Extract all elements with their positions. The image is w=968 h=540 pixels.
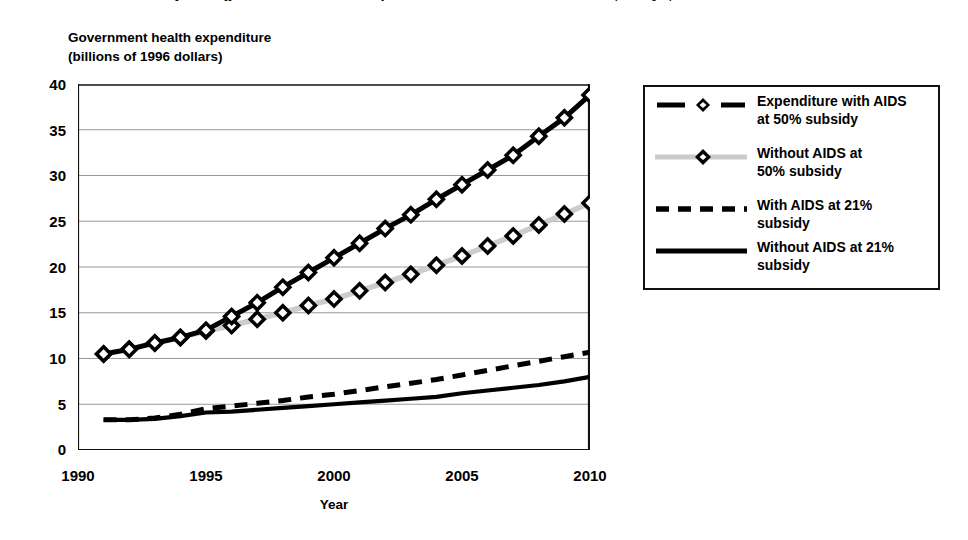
legend-label-line2: 50% subsidy: [757, 163, 842, 179]
legend-label-line1: Expenditure with AIDS: [757, 93, 907, 109]
data-point-marker: [145, 333, 164, 352]
data-point-marker: [273, 303, 292, 322]
series-layer: [94, 85, 590, 419]
y-tick-label-35: 35: [26, 123, 66, 138]
data-point-marker: [504, 226, 523, 245]
x-tick-label-1990: 1990: [43, 468, 113, 483]
data-point-marker: [197, 321, 216, 340]
y-tick-label-40: 40: [26, 77, 66, 92]
y-tick-label-20: 20: [26, 260, 66, 275]
x-tick-label-1995: 1995: [171, 468, 241, 483]
legend-label-with-aids-50: Expenditure with AIDS at 50% subsidy: [753, 93, 907, 128]
y-axis-caption: Government health expenditure (billions …: [68, 28, 271, 66]
legend-key-dashed-line: [653, 199, 753, 219]
data-point-marker: [94, 344, 113, 363]
legend-label-without-aids-21: Without AIDS at 21% subsidy: [753, 239, 894, 274]
y-tick-label-10: 10: [26, 351, 66, 366]
chart-figure: Projected government health expenditure …: [0, 0, 968, 540]
data-point-marker: [529, 215, 548, 234]
legend-label-line2: subsidy: [757, 215, 810, 231]
plot-area: [78, 84, 590, 450]
data-point-marker: [299, 296, 318, 315]
plot-svg: [78, 84, 590, 450]
data-point-marker: [376, 273, 395, 292]
y-tick-label-5: 5: [26, 397, 66, 412]
x-tick-label-2000: 2000: [299, 468, 369, 483]
data-point-marker: [401, 265, 420, 284]
y-tick-label-15: 15: [26, 305, 66, 320]
data-point-marker: [325, 290, 344, 309]
chart-title: Projected government health expenditure …: [150, 0, 850, 1]
data-point-marker: [120, 340, 139, 359]
legend-item-without-aids-50[interactable]: Without AIDS at 50% subsidy: [653, 145, 935, 191]
legend-label-line2: at 50% subsidy: [757, 111, 858, 127]
legend-label-with-aids-21: With AIDS at 21% subsidy: [753, 197, 872, 232]
legend-item-without-aids-21[interactable]: Without AIDS at 21% subsidy: [653, 239, 935, 285]
legend-label-line1: Without AIDS at: [757, 145, 862, 161]
y-axis-caption-line1: Government health expenditure: [68, 28, 271, 47]
legend-key-gray-line-diamond: [653, 147, 753, 167]
legend-label-line2: subsidy: [757, 257, 810, 273]
data-point-marker: [478, 236, 497, 255]
legend-label-line1: With AIDS at 21%: [757, 197, 872, 213]
legend-key-solid-line: [653, 241, 753, 261]
y-tick-label-0: 0: [26, 442, 66, 457]
legend-key-dash-diamond-dash: [653, 95, 753, 115]
data-point-marker: [171, 328, 190, 347]
data-point-marker: [453, 247, 472, 266]
y-axis-caption-line2: (billions of 1996 dollars): [68, 47, 271, 66]
y-tick-label-25: 25: [26, 214, 66, 229]
x-axis-title: Year: [78, 497, 590, 512]
data-point-marker: [427, 256, 446, 275]
data-point-marker: [555, 204, 574, 223]
legend-item-with-aids-21[interactable]: With AIDS at 21% subsidy: [653, 197, 935, 243]
legend-item-with-aids-50[interactable]: Expenditure with AIDS at 50% subsidy: [653, 93, 935, 139]
chart-legend: Expenditure with AIDS at 50% subsidy Wit…: [643, 85, 940, 290]
data-point-marker: [350, 281, 369, 300]
legend-label-without-aids-50: Without AIDS at 50% subsidy: [753, 145, 862, 180]
legend-label-line1: Without AIDS at 21%: [757, 239, 894, 255]
x-tick-label-2005: 2005: [427, 468, 497, 483]
x-tick-label-2010: 2010: [555, 468, 625, 483]
y-tick-label-30: 30: [26, 168, 66, 183]
data-point-marker: [581, 193, 591, 212]
